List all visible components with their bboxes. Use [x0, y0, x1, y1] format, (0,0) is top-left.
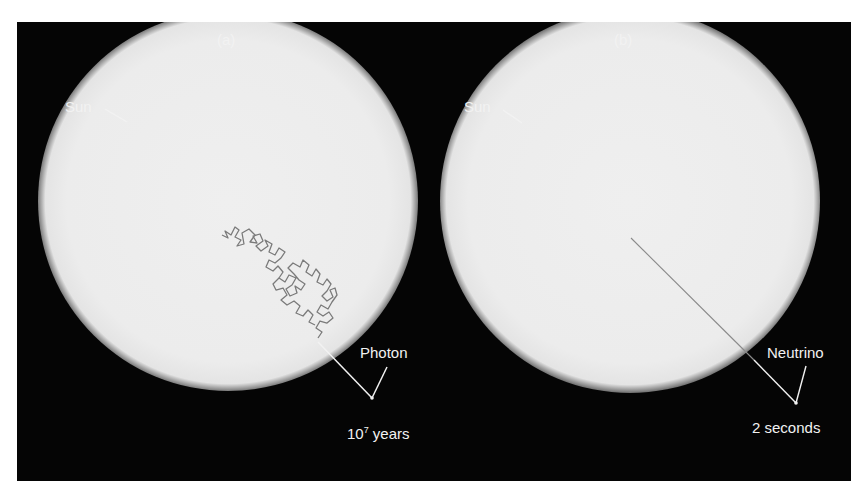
neutrino-endpoint-dot — [794, 401, 798, 405]
photon-walk-detail — [273, 278, 315, 325]
figure-panel: (a) Sun Photon 107 years (b) Sun Neutrin… — [17, 22, 851, 481]
sun-pointer-a — [105, 109, 127, 122]
diagram-lines — [17, 22, 851, 481]
sun-pointer-b — [503, 110, 522, 123]
photon-exit-line — [318, 342, 372, 398]
neutrino-label-line — [796, 366, 806, 403]
neutrino-exit-line — [754, 360, 796, 403]
neutrino-path-inside — [631, 238, 754, 360]
photon-label-line — [372, 367, 387, 398]
photon-endpoint-dot — [370, 396, 374, 400]
photon-random-walk-path — [222, 227, 337, 338]
